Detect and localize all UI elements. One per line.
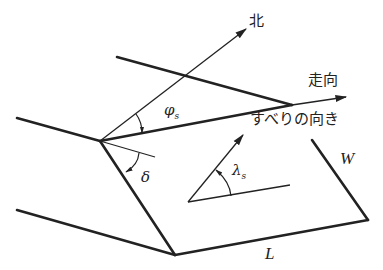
slip-reference-line <box>188 185 290 202</box>
dip-angle-label: δ <box>141 170 150 185</box>
strike-angle-arc <box>136 114 142 133</box>
slip-direction-label: すべりの向き <box>250 112 339 127</box>
back-surface-edge <box>117 57 292 105</box>
dip-angle-arc <box>126 153 139 172</box>
width-label: W <box>340 150 354 167</box>
north-label: 北 <box>249 14 264 29</box>
north-arrow <box>100 29 246 141</box>
rake-angle-label: λs <box>232 163 246 181</box>
strike-angle-label: φs <box>164 103 179 121</box>
strike-arrow <box>292 97 346 105</box>
length-label: L <box>265 245 274 262</box>
fault-geometry-diagram: 北 走向 すべりの向き φs δ λs W L <box>0 0 383 270</box>
strike-label: 走向 <box>308 73 338 88</box>
diagram-lines <box>0 0 383 270</box>
rake-angle-arc <box>216 170 231 196</box>
upper-surface-left-edge <box>17 118 100 141</box>
